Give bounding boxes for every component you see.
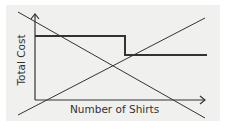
step-cost-line <box>35 36 207 55</box>
y-axis-label: Total Cost <box>15 25 27 95</box>
x-axis-label: Number of Shirts <box>70 103 159 115</box>
